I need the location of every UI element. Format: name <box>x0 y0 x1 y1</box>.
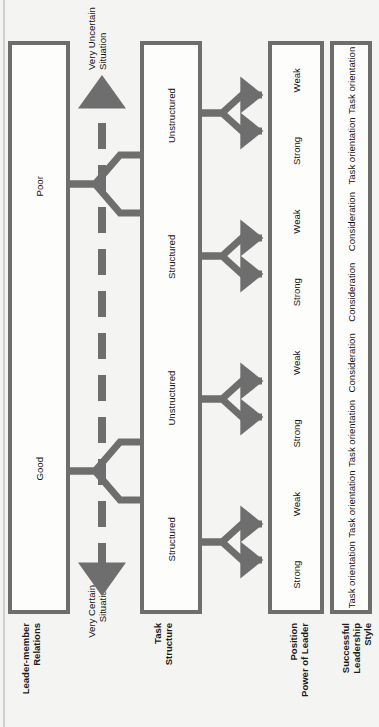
cell-leadership-style-4[interactable]: Consideration <box>346 257 357 328</box>
cell-position-power-0[interactable]: Strong <box>291 539 302 610</box>
cell-leadership-style-6[interactable]: Task orientation <box>346 116 357 187</box>
box-successful-leadership-style[interactable]: Task orientation Task orientation Task o… <box>330 41 372 614</box>
cell-position-power-5[interactable]: Weak <box>291 186 302 257</box>
cell-leader-member-relations-0[interactable]: Good <box>34 328 45 611</box>
cell-leadership-style-5[interactable]: Consideration <box>346 186 357 257</box>
row-label-task-structure: Task Structure <box>152 623 174 719</box>
cell-task-structure-1[interactable]: Unstructured <box>166 328 177 469</box>
cell-position-power-4[interactable]: Strong <box>291 257 302 328</box>
row-label-line: Position <box>288 623 299 719</box>
cell-task-structure-2[interactable]: Structured <box>166 186 177 327</box>
cell-position-power-2[interactable]: Strong <box>291 398 302 469</box>
row-label-line: Leadership <box>351 623 362 719</box>
diagram-page: Leader-member Relations Good Poor Task <box>0 0 379 727</box>
cell-position-power-1[interactable]: Weak <box>291 469 302 540</box>
box-position-power-of-leader[interactable]: Strong Weak Strong Weak Strong Weak Stro… <box>268 41 324 614</box>
continuum-label-very-uncertain: Very Uncertain Situation <box>86 0 108 70</box>
box-leader-member-relations[interactable]: Good Poor <box>8 41 70 614</box>
row-label-position-power-of-leader: Position Power of Leader <box>288 623 310 719</box>
row-label-successful-leadership-style: Successful Leadership Style <box>340 623 373 719</box>
cell-leadership-style-0[interactable]: Task orientation <box>346 539 357 610</box>
row-label-line: Leader-member <box>20 623 31 719</box>
cell-position-power-7[interactable]: Weak <box>291 45 302 116</box>
row-label-line: Relations <box>31 623 42 719</box>
continuum-label-line: Situation <box>97 0 108 70</box>
continuum-label-line: Very Certain <box>86 585 97 659</box>
row-label-line: Style <box>362 623 373 719</box>
cell-position-power-3[interactable]: Weak <box>291 328 302 399</box>
continuum-label-line: Very Uncertain <box>86 0 97 70</box>
cell-leadership-style-7[interactable]: Task orientation <box>346 45 357 116</box>
rotated-diagram-canvas: Leader-member Relations Good Poor Task <box>0 0 379 727</box>
cell-leader-member-relations-1[interactable]: Poor <box>34 45 45 328</box>
cell-leadership-style-3[interactable]: Consideration <box>346 328 357 399</box>
cell-task-structure-3[interactable]: Unstructured <box>166 45 177 186</box>
continuum-label-line: Situation <box>97 585 108 659</box>
cell-task-structure-0[interactable]: Structured <box>166 469 177 610</box>
cell-leadership-style-1[interactable]: Task orientation <box>346 469 357 540</box>
box-task-structure[interactable]: Structured Unstructured Structured Unstr… <box>140 41 202 614</box>
row-label-line: Task <box>152 623 163 719</box>
row-label-line: Power of Leader <box>299 623 310 719</box>
row-label-leader-member-relations: Leader-member Relations <box>20 623 42 719</box>
cell-position-power-6[interactable]: Strong <box>291 116 302 187</box>
continuum-label-very-certain: Very Certain Situation <box>86 585 108 659</box>
row-label-line: Successful <box>340 623 351 719</box>
row-label-line: Structure <box>163 623 174 719</box>
cell-leadership-style-2[interactable]: Task orientation <box>346 398 357 469</box>
